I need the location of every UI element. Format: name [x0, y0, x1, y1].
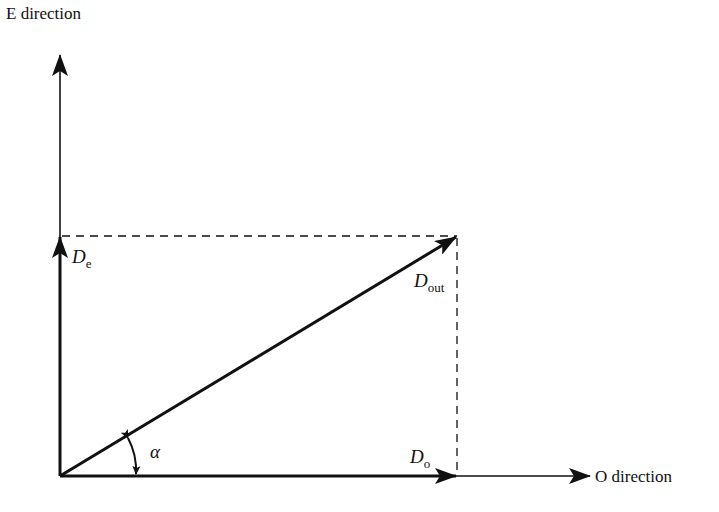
- e-axis-label: E direction: [6, 4, 82, 23]
- angle-alpha-label: α: [150, 441, 161, 462]
- o-axis-label: O direction: [595, 467, 672, 486]
- d-o-label: Do: [409, 446, 430, 471]
- d-out-vector: [60, 237, 456, 476]
- angle-arc: [128, 438, 136, 474]
- vector-decomposition-diagram: E direction O direction De Dout Do α: [0, 0, 719, 512]
- d-e-label: De: [71, 246, 92, 271]
- d-out-label: Dout: [413, 270, 445, 295]
